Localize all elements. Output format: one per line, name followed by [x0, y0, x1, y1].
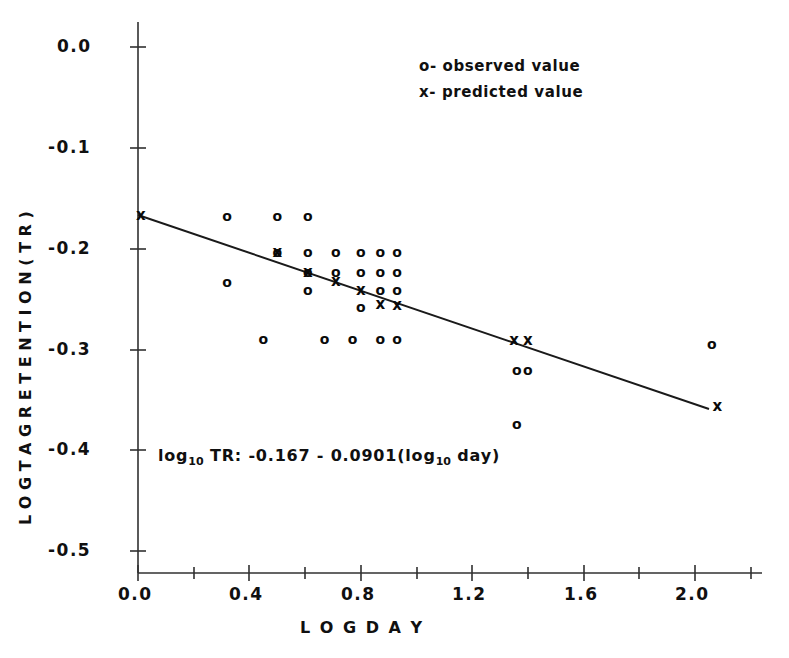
x-tick-label-2: 0.8 [341, 584, 376, 604]
y-tick-label-4: -0.4 [48, 439, 91, 459]
equation-prefix: log [158, 446, 188, 465]
observed-data-point: o [375, 245, 385, 259]
observed-data-point: o [512, 417, 522, 431]
plot-canvas [0, 0, 789, 658]
predicted-data-point: x [303, 264, 313, 279]
x-tick-label-3: 1.2 [452, 584, 487, 604]
x-tick-label-4: 1.6 [564, 584, 599, 604]
observed-data-point: o [303, 283, 313, 297]
legend-observed: o- observed value [419, 57, 580, 75]
observed-data-point: o [356, 300, 366, 314]
equation-middle: TR: -0.167 - 0.0901(log [204, 446, 436, 465]
equation-suffix: day) [451, 446, 500, 465]
predicted-data-point: x [356, 282, 366, 297]
observed-data-point: o [375, 265, 385, 279]
predicted-data-point: x [331, 273, 341, 288]
predicted-data-point: x [523, 333, 533, 348]
observed-data-point: o [512, 363, 522, 377]
y-tick-label-0: 0.0 [57, 36, 92, 56]
observed-data-point: o [222, 275, 232, 289]
x-tick-label-5: 2.0 [675, 584, 710, 604]
figure-container: 0.0 -0.1 -0.2 -0.3 -0.4 -0.5 0.0 0.4 0.8… [0, 0, 789, 658]
y-tick-label-5: -0.5 [48, 540, 91, 560]
x-tick-label-1: 0.4 [229, 584, 264, 604]
observed-data-point: o [707, 337, 717, 351]
predicted-data-point: x [375, 297, 385, 312]
observed-data-point: o [303, 209, 313, 223]
observed-data-point: o [222, 209, 232, 223]
observed-data-point: o [392, 332, 402, 346]
y-tick-label-1: -0.1 [48, 137, 91, 157]
predicted-data-point: x [509, 333, 519, 348]
observed-data-point: o [375, 332, 385, 346]
observed-data-point: o [272, 209, 282, 223]
equation-subscript-2: 10 [436, 455, 451, 468]
observed-data-point: o [523, 363, 533, 377]
observed-data-point: o [348, 332, 358, 346]
observed-data-point: o [356, 245, 366, 259]
observed-data-point: o [320, 332, 330, 346]
x-axis-title: L O G D A Y [300, 618, 424, 637]
predicted-data-point: x [272, 244, 282, 259]
regression-equation: log10 TR: -0.167 - 0.0901(log10 day) [158, 446, 500, 465]
y-tick-label-3: -0.3 [48, 339, 91, 359]
observed-data-point: o [259, 332, 269, 346]
legend-predicted: x- predicted value [419, 83, 583, 101]
y-axis-title: L O G T A G R E T E N T I O N ( T R ) [16, 211, 35, 525]
x-tick-label-0: 0.0 [118, 584, 153, 604]
regression-line [138, 215, 709, 409]
equation-subscript-1: 10 [188, 455, 203, 468]
observed-data-point: o [303, 245, 313, 259]
predicted-data-point: x [136, 208, 146, 223]
observed-data-point: o [356, 265, 366, 279]
predicted-data-point: x [392, 298, 402, 313]
observed-data-point: o [392, 245, 402, 259]
observed-data-point: o [392, 265, 402, 279]
observed-data-point: o [331, 245, 341, 259]
predicted-data-point: x [712, 398, 722, 413]
y-tick-label-2: -0.2 [48, 238, 91, 258]
